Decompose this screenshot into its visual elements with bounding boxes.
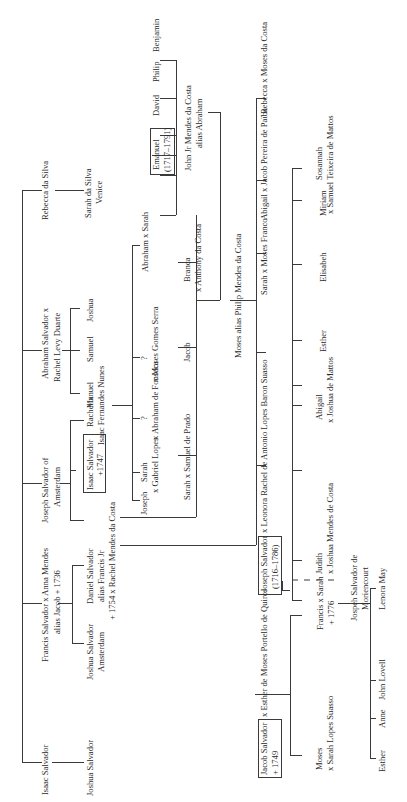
- joshua-amsterdam-place: Amsterdam: [96, 632, 106, 672]
- unknown-1: ?: [139, 416, 149, 420]
- moses: Moses: [314, 747, 324, 770]
- john-jr-mendes-da-costa: John Jr Mendes da Costa: [183, 85, 193, 171]
- generation-1: Isaac Salvador Francis Salvador x Anna M…: [40, 161, 62, 795]
- isaac-death: +1747: [95, 453, 105, 476]
- lenora-may: Lenora May: [377, 567, 387, 610]
- anne: Anne: [377, 709, 387, 728]
- x-sarah-lopes-suasso: x Sarah Lopes Suasso: [325, 696, 335, 771]
- abraham-x-sarah: Abraham x Sarah: [140, 211, 150, 272]
- esther: Esther: [318, 330, 328, 352]
- sarah-x-moses-franco: Sarah x Moses Franco: [259, 218, 269, 295]
- elisabeh: Elisabeh: [318, 252, 328, 282]
- isaac-fernandes-nunes: Isaac Fernandes Nunes: [96, 365, 106, 445]
- joshua-salvador-amsterdam: Joshua Salvador: [85, 624, 95, 680]
- sarah: Sarah: [139, 462, 149, 482]
- daniel-salvador: Daniel Salvador: [85, 548, 95, 604]
- generation-6: Jospeh Salvador de Moriencourt: [349, 554, 370, 621]
- francis-salvador-alias: alias Jacob + 1736: [52, 570, 62, 634]
- joseph-salvador-boxed: Joseph Salvador: [259, 536, 269, 592]
- x-gabriel-lopes: x Gabriel Lopes: [150, 437, 160, 493]
- jacob: Jacob: [182, 342, 192, 362]
- generation-3: Joseph Sarah x Gabriel Lopes ? x Abraham…: [139, 18, 243, 515]
- rebecca-x-moses-da-costa: Rebecca x Moses da Costa: [259, 22, 269, 114]
- x-samuel-teixeira-de-mattos: x Samuel Teixeira de Mattos: [325, 115, 335, 214]
- abigail-x-jacob-pereira-de-paiba: Abigail x Jacob Pereira de Païba: [259, 108, 269, 220]
- abraham-salvador: Abraham Salvador x: [40, 307, 50, 379]
- generation-5: Moses x Sarah Lopes Suasso Francis x Sar…: [314, 115, 336, 771]
- unknown-2: ?: [139, 356, 149, 360]
- rebecca-da-silva: Rebecca da Silva: [40, 161, 50, 220]
- x-moses-gomes-serra: x Moses Gomes Serra: [150, 306, 160, 382]
- samuel: Samuel: [85, 336, 95, 362]
- francis-salvador: Francis Salvador x Anna Mendes: [40, 547, 50, 662]
- x-joshua-de-mattos: x Joshua de Mattos: [325, 356, 335, 423]
- venice: Venice: [94, 180, 104, 204]
- moses-alias-philip-mendes-da-costa: Moses alias Philip Mendes da Costa: [233, 233, 243, 358]
- joseph: Joseph: [139, 491, 149, 515]
- sosannah: Sosannah: [314, 146, 324, 180]
- judith: Judith: [314, 552, 324, 574]
- isaac-salvador: Isaac Salvador: [40, 745, 50, 795]
- moriencourt: Moriencourt: [360, 566, 370, 610]
- x-esther-de-moses-portello-de-quiros: x Esther de Moses Portello de Quiros: [259, 588, 269, 717]
- isaac-salvador-boxed: Isaac Salvador: [85, 440, 95, 490]
- sarah-x-samuel-de-prado: Sarah x Samuel de Prado: [182, 414, 192, 500]
- daniel-alias: alias Francis Jr: [96, 550, 106, 602]
- sarah-da-silva: Sarah da Silva: [83, 168, 93, 218]
- generation-4: Jacob Salvador + 1749 x Esther de Moses …: [259, 22, 280, 775]
- philip: Philip: [151, 61, 161, 82]
- generation-2: Joshua Salvador Joshua Salvador Amsterda…: [83, 168, 117, 796]
- family-tree-diagram: Isaac Salvador Francis Salvador x Anna M…: [0, 0, 407, 802]
- joseph-salvador-dates: (1716–1786): [270, 544, 280, 589]
- francis-death: + 1776: [326, 600, 336, 625]
- emanuel: Emanuel: [151, 139, 161, 170]
- emanuel-dates: (1717–1791): [162, 127, 172, 172]
- jospeh-salvador-de: Jospeh Salvador de: [349, 554, 359, 621]
- joseph-amsterdam: Amsterdam: [52, 467, 62, 507]
- john-lovell: John Lovell: [377, 659, 387, 700]
- jacob-salvador: Jacob Salvador: [259, 723, 269, 775]
- x-anthony-da-costa: x Anthony da Costa: [193, 224, 203, 292]
- joshua: Joshua: [85, 298, 95, 322]
- x-joshua-mendes-de-costa: x Joshua Mendes de Costa: [325, 483, 335, 574]
- abigail: Abigail: [314, 394, 324, 420]
- esther-grandchild: Esther: [377, 750, 387, 772]
- daniel-marriage: + 1754 x Rachel Mendes da Costa: [107, 502, 117, 620]
- benjamin: Benjamin: [151, 18, 161, 52]
- manuel: Manuel: [85, 381, 95, 408]
- joshua-salvador: Joshua Salvador: [85, 740, 95, 796]
- alias-abraham: alias Abraham: [194, 98, 204, 148]
- x-leonora-rachel-baron-suasso: x Leonora Rachel de Antonio Lopes Baron …: [259, 359, 269, 533]
- generation-7: Esther Anne John Lovell Lenora May: [377, 567, 387, 772]
- david: David: [151, 94, 161, 116]
- joseph-salvador-of: Joseph Salvador of: [40, 457, 50, 523]
- rachel-levy-duarte: Rachel Levy Duarte: [52, 313, 62, 382]
- jacob-salvador-death: + 1749: [270, 751, 280, 775]
- francis-x-sarah: Francis x Sarah: [315, 576, 325, 630]
- branca: Branca: [182, 257, 192, 282]
